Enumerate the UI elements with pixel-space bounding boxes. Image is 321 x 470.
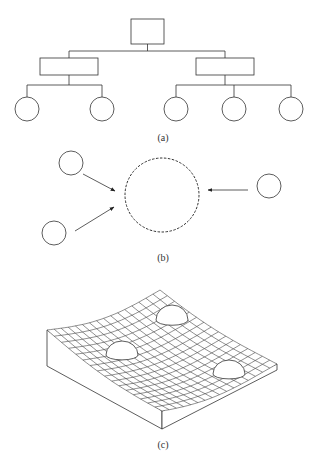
surface-diagram [47,290,277,429]
leaf-node [279,97,303,121]
leaf-node [222,97,246,121]
intermediate-node [196,58,254,75]
target-dashed-circle [125,158,199,232]
tree-diagram [15,19,303,121]
source-circle [59,151,83,175]
arrow [83,174,115,191]
root-node [131,19,164,44]
panel-label-c: (c) [157,439,168,450]
leaf-node [90,97,114,121]
figure-canvas [0,0,321,470]
panel-label-b: (b) [157,252,169,263]
source-circle [257,174,281,198]
intermediate-node [40,58,98,75]
arrow [75,207,114,231]
leaf-node [15,97,39,121]
convergence-diagram [42,151,281,245]
source-circle [42,221,66,245]
panel-label-a: (a) [157,132,168,143]
leaf-node [164,97,188,121]
